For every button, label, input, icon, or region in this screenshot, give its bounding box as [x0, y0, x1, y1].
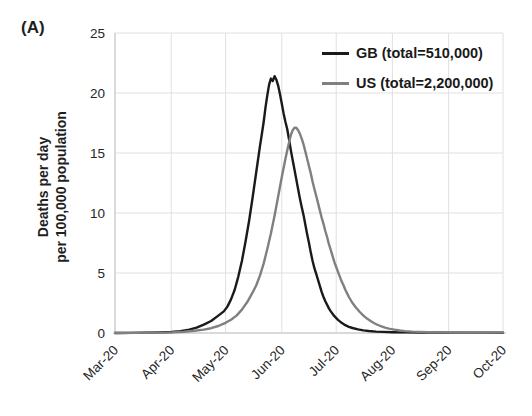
legend-label-us: US (total=2,200,000)	[356, 75, 493, 91]
legend-label-gb: GB (total=510,000)	[356, 45, 483, 61]
y-tick-label: 5	[97, 266, 105, 281]
figure-panel-a: 0510152025Mar-20Apr-20May-20Jun-20Jul-20…	[0, 0, 532, 416]
legend-line-us	[322, 82, 349, 85]
series-line-gb	[115, 76, 503, 333]
legend: GB (total=510,000) US (total=2,200,000)	[322, 42, 493, 102]
y-tick-label: 20	[90, 86, 105, 101]
panel-label: (A)	[21, 18, 45, 38]
y-axis-title-line2: per 100,000 population	[52, 111, 70, 263]
y-tick-label: 0	[97, 326, 105, 341]
x-tick-label: Jun-20	[248, 343, 288, 383]
x-tick-label: Apr-20	[138, 343, 177, 382]
legend-line-gb	[322, 52, 349, 55]
x-tick-label: Sep-20	[413, 343, 454, 384]
x-tick-label: Mar-20	[80, 343, 121, 384]
y-axis-title-line1: Deaths per day	[34, 111, 52, 263]
x-tick-label: Jul-20	[306, 343, 343, 380]
legend-item-us: US (total=2,200,000)	[322, 72, 493, 94]
y-tick-label: 15	[90, 146, 105, 161]
x-tick-label: Aug-20	[357, 343, 398, 384]
y-tick-label: 25	[90, 26, 105, 41]
x-tick-label: Oct-20	[470, 343, 509, 382]
series-line-us	[115, 128, 503, 333]
y-tick-label: 10	[90, 206, 105, 221]
x-tick-label: May-20	[189, 343, 231, 385]
y-axis-title: Deaths per day per 100,000 population	[34, 111, 70, 263]
legend-item-gb: GB (total=510,000)	[322, 42, 493, 64]
